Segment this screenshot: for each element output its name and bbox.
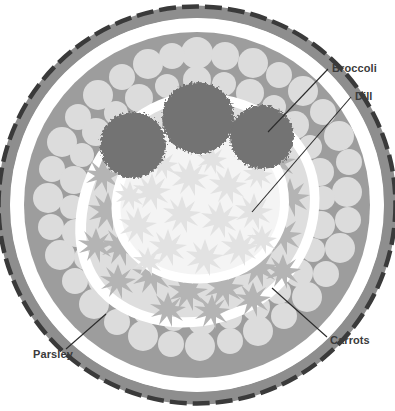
label-broccoli[interactable]: Broccoli bbox=[332, 62, 377, 74]
label-dill[interactable]: Dill bbox=[355, 90, 373, 102]
label-parsley[interactable]: Parsley bbox=[33, 348, 74, 360]
figure-root: Broccoli Dill Carrots Parsley bbox=[0, 0, 395, 411]
vegetable-platter-diagram: Broccoli Dill Carrots Parsley bbox=[0, 0, 395, 411]
broccoli-floret-left bbox=[100, 112, 166, 178]
label-carrots[interactable]: Carrots bbox=[330, 334, 370, 346]
broccoli-floret-center bbox=[162, 82, 234, 154]
